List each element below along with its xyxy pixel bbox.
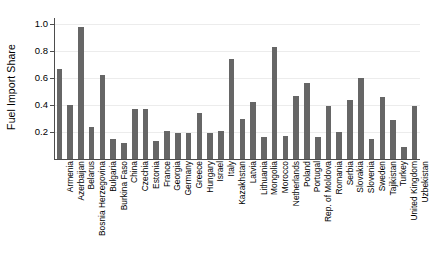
y-axis-tick-labels: 0.20.40.60.81.0 (18, 0, 48, 272)
x-axis-tick-label: China (127, 161, 135, 183)
x-axis-tick-label: Portugal (310, 161, 318, 192)
y-axis-tick-mark (50, 24, 54, 25)
y-axis-tick-label: 0.8 (22, 46, 48, 56)
x-axis-tick-label: Latvia (246, 161, 254, 183)
y-axis-tick-mark (50, 105, 54, 106)
bar (121, 143, 127, 159)
y-axis-tick-mark (50, 132, 54, 133)
bar (261, 137, 267, 159)
x-axis-tick-label: Morocco (278, 161, 286, 193)
bar (110, 139, 116, 159)
x-axis-tick-label: Belarus (84, 161, 92, 189)
bar (293, 96, 299, 159)
bar (207, 133, 213, 159)
x-axis-tick-label: Azerbaijan (74, 161, 82, 201)
x-axis-tick-label: Bulgaria (106, 161, 114, 192)
y-axis-tick-label: 0.2 (22, 127, 48, 137)
y-axis-tick-mark (50, 51, 54, 52)
x-axis-tick-label-text: Armenia (66, 161, 74, 192)
bar (78, 27, 84, 159)
bar (272, 47, 278, 159)
x-axis-tick-label-text: Netherlands (292, 161, 300, 206)
x-axis-tick-label: France (160, 161, 168, 187)
bar (304, 83, 310, 159)
x-axis-tick-label: Tajikistan (386, 161, 394, 195)
x-axis-tick-label: Greece (192, 161, 200, 188)
x-axis-tick-label: Rep. of Moldova (321, 161, 329, 222)
x-axis-tick-label: Netherlands (289, 161, 297, 206)
bar (132, 109, 138, 159)
bar (412, 106, 418, 159)
x-axis-tick-label: Kazakhstan (235, 161, 243, 205)
y-axis-title-text: Fuel Import Share (5, 44, 17, 130)
x-axis-tick-label: Estonia (149, 161, 157, 189)
x-axis-tick-label: Romania (332, 161, 340, 195)
bar (380, 97, 386, 159)
bar (315, 137, 321, 159)
bar (89, 127, 95, 159)
bar (143, 109, 149, 159)
bar (347, 100, 353, 159)
x-axis-tick-label: Burkina Faso (117, 161, 125, 210)
x-axis-tick-labels: ArmeniaAzerbaijanBelarusBosnia Herzegovi… (54, 161, 420, 272)
x-axis-tick-label: Slovenia (364, 161, 372, 193)
bar (164, 131, 170, 159)
bar (369, 139, 375, 159)
bar (283, 136, 289, 159)
x-axis-tick-label: Serbia (343, 161, 351, 185)
bar-series (54, 24, 420, 159)
x-axis-tick-label: Turkey (396, 161, 404, 186)
y-axis-tick-label: 0.4 (22, 100, 48, 110)
bar (153, 141, 159, 159)
bar (250, 102, 256, 159)
x-axis-tick-label: Uzbekistan (418, 161, 426, 202)
x-axis-tick-label: Sweden (375, 161, 383, 191)
y-axis-tick-label: 0.6 (22, 73, 48, 83)
x-axis-tick-label: Germany (181, 161, 189, 195)
x-axis-tick-label: Italy (224, 161, 232, 176)
bar (358, 78, 364, 159)
bar (390, 120, 396, 159)
x-axis-tick-label: United Kingdom (407, 161, 415, 221)
x-axis-tick-label-text: Latvia (249, 161, 257, 183)
x-axis-tick-label: Armenia (63, 161, 71, 192)
x-axis-tick-label: Bosnia Herzegovina (95, 161, 103, 236)
x-axis-tick-label: Mongolia (267, 161, 275, 195)
bar (175, 133, 181, 159)
bar (240, 119, 246, 160)
bar (336, 132, 342, 159)
bar (326, 106, 332, 159)
bar (229, 59, 235, 159)
bar (67, 105, 73, 159)
x-axis-tick-label: Israel (213, 161, 221, 181)
bar (100, 75, 106, 159)
bar (186, 133, 192, 159)
x-axis-tick-label: Hungary (203, 161, 211, 193)
bar (57, 69, 63, 159)
x-axis-tick-label: Slovakia (353, 161, 361, 193)
x-axis-tick-label: Lithuania (257, 161, 265, 195)
y-axis-tick-label: 1.0 (22, 19, 48, 29)
bar (218, 131, 224, 159)
bar (197, 113, 203, 159)
x-axis-tick-label: Poland (300, 161, 308, 187)
x-axis-tick-label-text: Bulgaria (109, 161, 117, 192)
x-axis-tick-label: Czechia (138, 161, 146, 191)
x-axis-tick-label-text: Uzbekistan (421, 161, 429, 202)
bar (401, 147, 407, 159)
y-axis-tick-mark (50, 78, 54, 79)
x-axis-tick-label: Georgia (170, 161, 178, 191)
